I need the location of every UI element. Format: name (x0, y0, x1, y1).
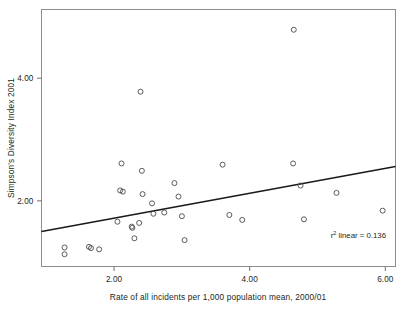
x-axis-title: Rate of all incidents per 1,000 populati… (110, 292, 327, 302)
r-squared-annotation: r2 linear = 0.136 (331, 230, 386, 240)
chart-background (0, 0, 413, 311)
y-axis-title: Simpson's Diversity Index 2001 (6, 78, 16, 198)
x-tick-label: 6.00 (377, 275, 394, 284)
x-tick-label: 4.00 (242, 275, 259, 284)
chart-canvas: 2.004.006.00 2.004.00 Rate of all incide… (0, 0, 413, 311)
scatter-plot-figure: 2.004.006.00 2.004.00 Rate of all incide… (0, 0, 413, 311)
x-tick-label: 2.00 (106, 275, 123, 284)
y-tick-label: 2.00 (17, 197, 34, 206)
y-tick-label: 4.00 (17, 74, 34, 83)
